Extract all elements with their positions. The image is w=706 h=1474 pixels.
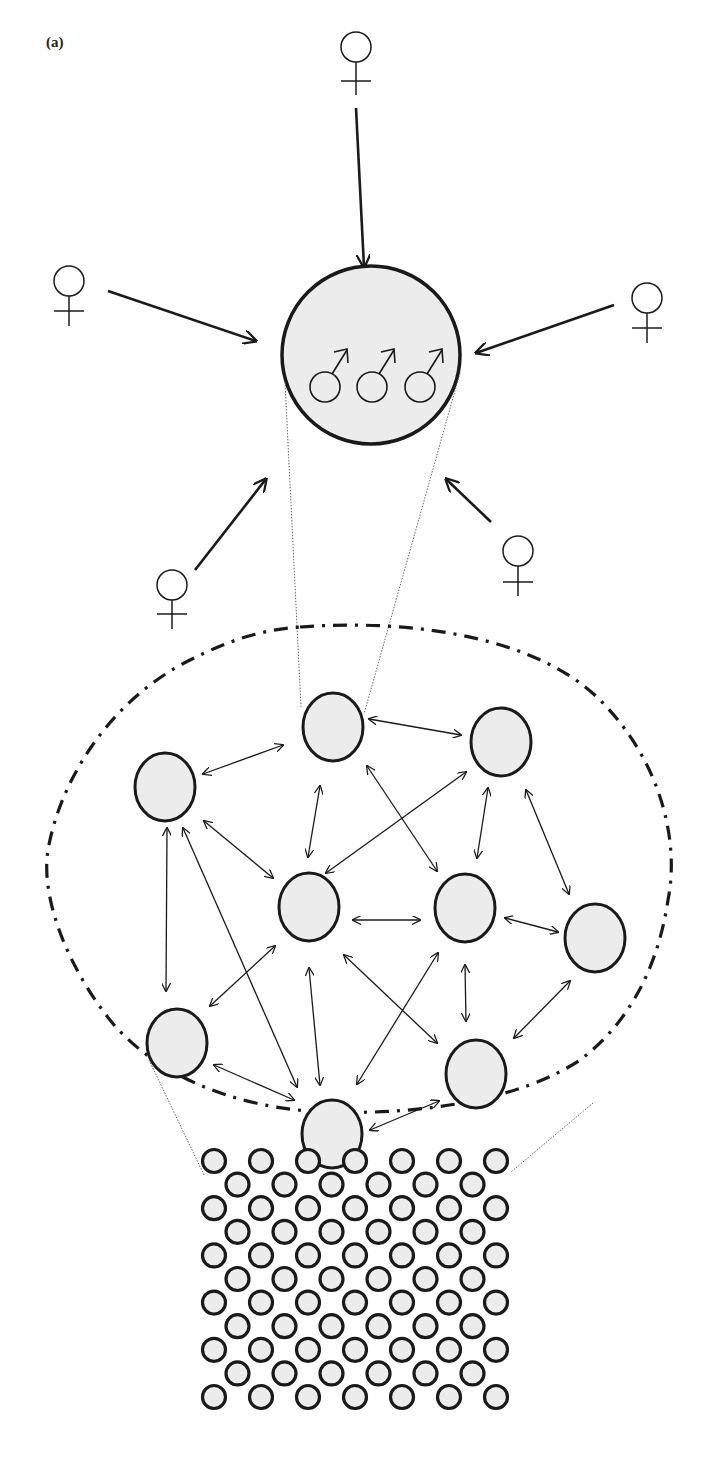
- individual-circle: [226, 1220, 249, 1243]
- gene-flow-arrow: [203, 745, 283, 774]
- individual-circle: [414, 1173, 437, 1196]
- individual-circle: [203, 1338, 226, 1361]
- female-icon: [341, 32, 371, 95]
- individual-circle: [226, 1315, 249, 1338]
- individual-circle: [273, 1362, 296, 1385]
- subpopulation-node-B: [303, 693, 363, 761]
- individual-circle: [391, 1338, 414, 1361]
- subpopulation-node-D: [279, 873, 339, 941]
- individual-circle: [367, 1220, 390, 1243]
- individual-circle: [461, 1315, 484, 1338]
- individual-circle: [297, 1386, 320, 1409]
- individual-circle: [273, 1268, 296, 1291]
- individual-circle: [226, 1268, 249, 1291]
- individual-circle: [344, 1338, 367, 1361]
- individual-circle: [297, 1338, 320, 1361]
- individual-circle: [203, 1244, 226, 1267]
- migration-arrow: [446, 479, 491, 522]
- subpopulation-node-E: [435, 874, 495, 942]
- individual-circle: [297, 1244, 320, 1267]
- subpopulation-node-C: [471, 708, 531, 776]
- gene-flow-arrow: [309, 968, 320, 1085]
- individual-circle: [391, 1291, 414, 1314]
- female-icon: [157, 570, 187, 629]
- subpopulation-node-I: [446, 1040, 506, 1108]
- individual-circle: [391, 1386, 414, 1409]
- individual-circle: [320, 1220, 343, 1243]
- individual-circle: [391, 1244, 414, 1267]
- individual-circle: [203, 1386, 226, 1409]
- individual-circle: [414, 1220, 437, 1243]
- individual-circle: [320, 1362, 343, 1385]
- subpopulation-node-G: [147, 1009, 207, 1077]
- migration-arrow: [195, 479, 266, 570]
- individual-lattice: [203, 1150, 508, 1409]
- individual-circle: [391, 1197, 414, 1220]
- gene-flow-arrow: [210, 946, 275, 1006]
- mating-group-circle: [282, 266, 460, 444]
- individual-circle: [414, 1268, 437, 1291]
- individual-circle: [297, 1291, 320, 1314]
- individual-circle: [485, 1197, 508, 1220]
- individual-circle: [391, 1150, 414, 1173]
- individual-circle: [320, 1268, 343, 1291]
- gene-flow-arrow: [357, 953, 438, 1084]
- individual-circle: [273, 1315, 296, 1338]
- individual-circle: [344, 1150, 367, 1173]
- subpopulation-node-F: [565, 904, 625, 972]
- gene-flow-arrow: [370, 1101, 439, 1130]
- individual-circle: [438, 1291, 461, 1314]
- individual-circle: [320, 1173, 343, 1196]
- gene-flow-arrow: [369, 719, 461, 735]
- gene-flow-arrow: [514, 981, 570, 1038]
- individual-circle: [367, 1362, 390, 1385]
- individual-circle: [250, 1197, 273, 1220]
- individual-circle: [485, 1338, 508, 1361]
- gene-flow-arrow: [465, 965, 466, 1021]
- individual-circle: [273, 1220, 296, 1243]
- individual-circle: [461, 1173, 484, 1196]
- gene-flow-arrow: [477, 788, 488, 858]
- top-group: [282, 266, 460, 444]
- individual-circle: [438, 1338, 461, 1361]
- individual-circle: [344, 1386, 367, 1409]
- gene-flow-arrow: [166, 828, 167, 991]
- gene-flow-arrow: [214, 1065, 294, 1100]
- gene-flow-arrow: [308, 786, 320, 857]
- individual-circle: [485, 1150, 508, 1173]
- individual-circle: [297, 1197, 320, 1220]
- population-boundary: [47, 625, 672, 1112]
- female-icon: [503, 536, 533, 596]
- individual-circle: [367, 1315, 390, 1338]
- individual-circle: [438, 1244, 461, 1267]
- gene-flow-arrow: [526, 790, 569, 894]
- gene-flow-arrow: [326, 772, 466, 873]
- network-edges: [166, 719, 570, 1130]
- individual-circle: [414, 1315, 437, 1338]
- migration-arrow: [356, 108, 364, 267]
- individual-circle: [461, 1220, 484, 1243]
- individual-circle: [367, 1173, 390, 1196]
- individual-circle: [297, 1150, 320, 1173]
- migration-arrow: [476, 305, 614, 353]
- individual-circle: [250, 1291, 273, 1314]
- individual-circle: [226, 1362, 249, 1385]
- population-structure-diagram: [0, 0, 706, 1474]
- individual-circle: [250, 1244, 273, 1267]
- individual-circle: [461, 1268, 484, 1291]
- individual-circle: [485, 1244, 508, 1267]
- individual-circle: [438, 1197, 461, 1220]
- female-icon: [632, 283, 662, 343]
- gene-flow-arrow: [505, 918, 558, 932]
- gene-flow-arrow: [204, 821, 273, 878]
- individual-circle: [344, 1197, 367, 1220]
- individual-circle: [226, 1173, 249, 1196]
- individual-circle: [461, 1362, 484, 1385]
- individual-circle: [250, 1386, 273, 1409]
- migration-arrow: [108, 291, 256, 341]
- individual-circle: [367, 1268, 390, 1291]
- individual-circle: [203, 1291, 226, 1314]
- individual-circle: [203, 1150, 226, 1173]
- individual-circle: [250, 1338, 273, 1361]
- individual-circle: [438, 1150, 461, 1173]
